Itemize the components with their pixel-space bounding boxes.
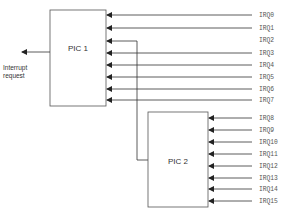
pic1-irq-labels: IRQ0 IRQ1 IRQ2 IRQ3 IRQ4 IRQ5 IRQ6 IRQ7 [259, 12, 274, 104]
irq-label: IRQ13 [259, 175, 278, 182]
irq-label: IRQ10 [259, 139, 278, 146]
irq-label: IRQ3 [259, 50, 274, 57]
interrupt-request-output: Interrupt request [3, 52, 50, 80]
pic1-box: PIC 1 [50, 10, 106, 106]
irq-label: IRQ5 [259, 74, 274, 81]
pic2-irq-lines [209, 118, 252, 201]
pic2-label: PIC 2 [168, 157, 189, 166]
irq-label: IRQ4 [259, 62, 274, 69]
cascade-line [107, 41, 148, 160]
pic1-label: PIC 1 [68, 44, 89, 53]
irq-label: IRQ11 [259, 151, 278, 158]
irq-label: IRQ15 [259, 198, 278, 205]
irq-label: IRQ6 [259, 86, 274, 93]
irq-label: IRQ2 [259, 37, 274, 44]
irq-label: IRQ7 [259, 97, 274, 104]
interrupt-label-line1: Interrupt [3, 64, 27, 72]
irq-label: IRQ14 [259, 186, 278, 193]
pic2-box: PIC 2 [148, 112, 208, 207]
interrupt-controller-diagram: PIC 1 Interrupt request IRQ0 IRQ1 IRQ2 I… [0, 0, 294, 218]
irq-label: IRQ12 [259, 163, 278, 170]
interrupt-label-line2: request [3, 72, 25, 80]
pic2-irq-labels: IRQ8 IRQ9 IRQ10 IRQ11 IRQ12 IRQ13 IRQ14 … [259, 115, 278, 205]
irq-label: IRQ0 [259, 12, 274, 19]
irq-label: IRQ9 [259, 127, 274, 134]
irq-label: IRQ1 [259, 25, 274, 32]
irq-label: IRQ8 [259, 115, 274, 122]
